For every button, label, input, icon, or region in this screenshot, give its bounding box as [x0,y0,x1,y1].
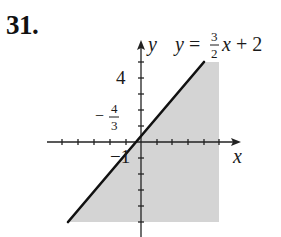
svg-text:x: x [221,33,231,55]
svg-text:2: 2 [211,46,218,61]
x-axis-label: x [232,145,242,167]
svg-text:4: 4 [111,101,118,116]
svg-text:3: 3 [211,29,218,44]
svg-text:=: = [189,33,200,55]
svg-text:−: − [95,107,104,124]
svg-text:+ 2: + 2 [236,33,262,55]
svg-text:3: 3 [111,118,118,133]
y-tick-label-neg1: −1 [110,146,130,167]
equation-label: y = 3 2 x + 2 [173,29,262,61]
x-intercept-label: − 4 3 [95,101,119,133]
y-tick-label-4: 4 [116,67,126,88]
y-axis-label: y [146,33,157,56]
svg-text:y: y [173,33,184,56]
graph: y x y = 3 2 x + 2 4 −1 − 4 3 [0,0,281,237]
